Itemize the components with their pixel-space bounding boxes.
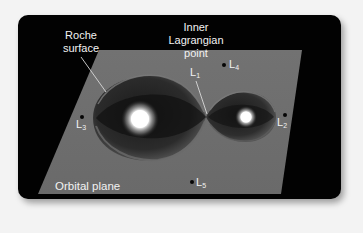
point-label-l2: L2	[277, 116, 287, 132]
orbital-plane-label: Orbital plane	[55, 180, 120, 193]
inner-lagrangian-line-3: point	[166, 47, 226, 60]
inner-lagrangian-line-1: Inner	[166, 21, 226, 34]
roche-surface-line-2: surface	[56, 42, 106, 55]
l4-point-marker	[222, 63, 226, 67]
roche-surface-line-1: Roche	[56, 29, 106, 42]
inner-lagrangian-line-2: Lagrangian	[166, 34, 226, 47]
point-label-l1: L1	[190, 66, 200, 82]
point-label-l4: L4	[229, 58, 239, 74]
l5-point-marker	[190, 180, 194, 184]
inner-lagrangian-label: Inner Lagrangian point	[166, 21, 226, 60]
roche-surface-label: Roche surface	[56, 29, 106, 55]
point-label-l3: L3	[76, 118, 86, 134]
point-label-l5: L5	[196, 176, 206, 192]
